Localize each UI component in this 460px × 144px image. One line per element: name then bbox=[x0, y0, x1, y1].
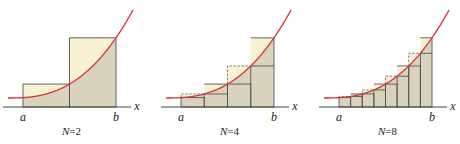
label-b: b bbox=[271, 110, 277, 124]
panel-caption: N=4 bbox=[219, 125, 240, 137]
label-a: a bbox=[178, 110, 184, 124]
label-x-axis: x bbox=[291, 99, 298, 113]
label-a: a bbox=[20, 110, 26, 124]
panel-n4: abxN=4 bbox=[161, 10, 298, 137]
label-b: b bbox=[429, 110, 435, 124]
panel-n2: abxN=2 bbox=[3, 10, 140, 137]
label-x-axis: x bbox=[449, 99, 456, 113]
panel-caption: N=2 bbox=[61, 125, 81, 137]
panel-caption: N=8 bbox=[377, 125, 398, 137]
panel-n8: abxN=8 bbox=[319, 10, 456, 137]
label-x-axis: x bbox=[133, 99, 140, 113]
label-a: a bbox=[336, 110, 342, 124]
riemann-sum-figure: abxN=2abxN=4abxN=8 bbox=[0, 0, 460, 144]
label-b: b bbox=[113, 110, 119, 124]
